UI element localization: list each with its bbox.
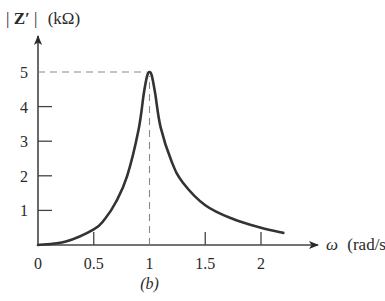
x-tick-label: 0: [34, 255, 42, 272]
y-tick-label: 5: [20, 64, 28, 81]
x-tick-label: 0.5: [84, 255, 104, 272]
y-label-unit: (kΩ): [48, 9, 80, 28]
x-tick-label: 2: [257, 255, 265, 272]
x-tick-label: 1: [146, 255, 154, 272]
x-tick-label: 1.5: [195, 255, 215, 272]
x-label-unit: (rad/s: [347, 235, 385, 254]
y-tick-label: 4: [20, 99, 28, 116]
y-label-bar-right: |: [34, 9, 37, 28]
y-label-symbol: Z′: [14, 9, 30, 28]
x-axis-label: ω (rad/s: [326, 235, 385, 254]
y-axis-label: | Z′ | (kΩ): [6, 9, 80, 28]
figure-caption: (b): [140, 275, 159, 293]
series-line-z-magnitude: [38, 72, 283, 245]
x-label-symbol: ω: [326, 235, 338, 254]
y-label-bar-left: |: [6, 9, 9, 28]
y-tick-label: 1: [20, 202, 28, 219]
y-tick-label: 3: [20, 133, 28, 150]
resonance-chart: | Z′ | (kΩ) ω (rad/s 00.511.5212345 (b): [0, 0, 385, 301]
y-tick-label: 2: [20, 168, 28, 185]
